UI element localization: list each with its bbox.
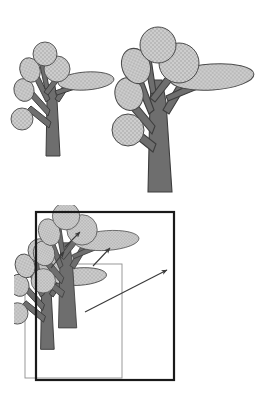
tree-shape-matching-figure (0, 0, 262, 398)
